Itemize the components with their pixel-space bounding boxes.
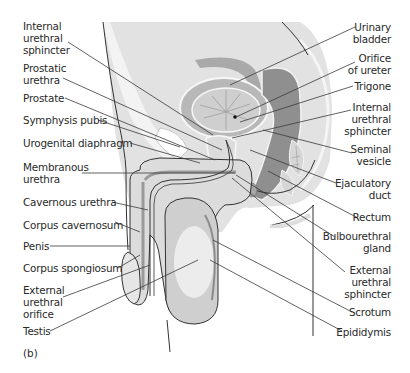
label-urogenital-diaphragm: Urogenital diaphragm — [23, 137, 133, 149]
label-membranous-urethra: Membranous urethra — [23, 161, 89, 185]
label-testis: Testis — [23, 325, 51, 337]
label-penis: Penis — [23, 240, 49, 252]
label-bulbourethral-gland: Bulbourethral gland — [323, 230, 391, 254]
male-reproductive-anatomy-figure: Internal urethral sphincter Prostatic ur… — [0, 0, 410, 373]
label-internal-urethral-sphincter-right: Internal urethral sphincter — [344, 101, 391, 137]
label-symphysis-pubis: Symphysis pubis — [23, 114, 107, 126]
label-prostate: Prostate — [23, 92, 64, 104]
label-prostatic-urethra: Prostatic urethra — [23, 62, 66, 86]
label-external-urethral-sphincter: External urethral sphincter — [344, 264, 391, 300]
label-external-urethral-orifice: External urethral orifice — [23, 284, 65, 320]
label-ejaculatory-duct: Ejaculatory duct — [335, 177, 391, 201]
label-rectum: Rectum — [353, 211, 391, 223]
label-seminal-vesicle: Seminal vesicle — [351, 143, 391, 167]
label-urinary-bladder: Urinary bladder — [353, 21, 391, 45]
label-orifice-of-ureter: Orifice of ureter — [348, 52, 391, 76]
label-corpus-cavernosum: Corpus cavernosum — [23, 219, 123, 231]
thigh-outline — [167, 320, 170, 352]
label-trigone: Trigone — [354, 80, 391, 92]
label-internal-urethral-sphincter-left: Internal urethral sphincter — [23, 20, 70, 56]
label-scrotum: Scrotum — [349, 306, 391, 318]
label-corpus-spongiosum: Corpus spongiosum — [23, 262, 122, 274]
label-epididymis: Epididymis — [336, 326, 391, 338]
figure-caption: (b) — [23, 347, 38, 359]
label-cavernous-urethra: Cavernous urethra — [23, 196, 116, 208]
